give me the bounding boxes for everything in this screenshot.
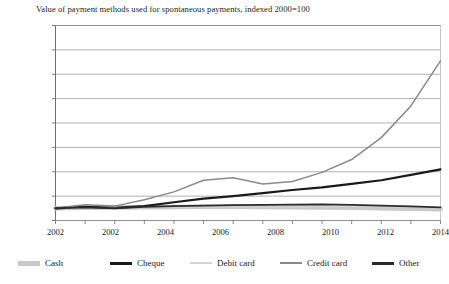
x-axis-tick-label: 2002 (102, 227, 119, 237)
legend-item-other[interactable]: Other (372, 258, 420, 268)
legend-item-cash[interactable]: Cash (18, 258, 63, 268)
x-axis-labels: 20022002200420062008201020122014 (0, 0, 449, 284)
legend-label: Cheque (137, 258, 165, 268)
legend-swatch-icon (110, 262, 132, 265)
x-axis-tick-label: 2010 (322, 227, 339, 237)
legend-label: Cash (45, 258, 63, 268)
legend-item-credit-card[interactable]: Credit card (280, 258, 347, 268)
legend-label: Other (399, 258, 420, 268)
legend-item-debit-card[interactable]: Debit card (190, 258, 255, 268)
x-axis-tick-label: 2004 (157, 227, 174, 237)
chart-legend: CashChequeDebit cardCredit cardOther (0, 258, 449, 278)
chart-figure: value of payment methods used Value of p… (0, 0, 449, 284)
legend-swatch-icon (190, 262, 212, 264)
legend-swatch-icon (280, 262, 302, 264)
legend-label: Credit card (307, 258, 347, 268)
legend-swatch-icon (372, 262, 394, 265)
x-axis-tick-label: 2012 (377, 227, 394, 237)
x-axis-tick-label: 2002 (47, 227, 64, 237)
x-axis-tick-label: 2014 (432, 227, 449, 237)
legend-swatch-icon (18, 261, 40, 266)
legend-item-cheque[interactable]: Cheque (110, 258, 165, 268)
x-axis-tick-label: 2008 (267, 227, 284, 237)
legend-label: Debit card (217, 258, 255, 268)
x-axis-tick-label: 2006 (212, 227, 229, 237)
